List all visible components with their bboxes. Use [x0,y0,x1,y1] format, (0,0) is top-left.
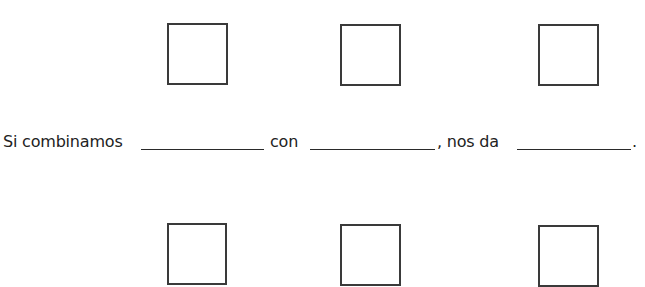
fill-in-sentence: Si combinamos con , nos da . [0,131,645,155]
blank-line-2[interactable] [310,149,435,150]
sentence-part-si-combinamos: Si combinamos [3,131,123,153]
blank-line-1[interactable] [141,149,264,150]
top-answer-box-3[interactable] [538,24,599,86]
bottom-answer-box-3[interactable] [538,225,599,287]
bottom-answer-box-1[interactable] [167,223,227,285]
top-answer-box-1[interactable] [167,23,228,85]
bottom-answer-box-2[interactable] [340,224,401,286]
top-answer-box-2[interactable] [340,24,401,86]
blank-line-3[interactable] [517,149,631,150]
sentence-period: . [632,131,637,153]
sentence-part-con: con [270,131,298,153]
sentence-part-nos-da: , nos da [437,131,499,153]
